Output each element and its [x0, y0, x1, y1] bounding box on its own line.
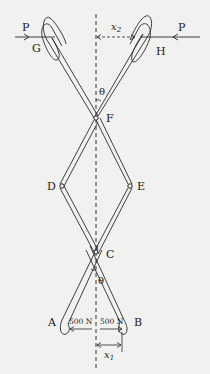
label-x2: x2 [111, 21, 122, 34]
label-theta-top: θ [99, 86, 105, 97]
pin-D [60, 184, 64, 188]
label-A: A [47, 316, 57, 329]
label-x1: x1 [104, 349, 114, 362]
label-500N-right: 500 N [100, 317, 124, 326]
label-theta-bottom: θ [98, 275, 104, 286]
pin-C [94, 250, 98, 254]
link-F-D [60, 120, 98, 186]
pin-E [128, 184, 132, 188]
label-D: D [47, 180, 56, 193]
label-G: G [32, 42, 41, 55]
label-P-right: P [178, 21, 186, 34]
pin-F [94, 116, 98, 120]
label-C: C [106, 248, 114, 261]
link-D-C [60, 186, 98, 252]
arm-H-C [94, 16, 152, 118]
label-B: B [134, 316, 142, 329]
angle-arc-top [96, 100, 101, 101]
arm-G-C [42, 17, 98, 118]
label-500N-left: 500 N [69, 317, 93, 326]
force-arrow-left-P [15, 34, 55, 40]
link-E-C [94, 188, 132, 254]
label-H: H [156, 45, 166, 58]
label-E: E [137, 180, 145, 193]
label-F: F [106, 112, 114, 125]
dimension-x2 [97, 35, 135, 40]
diagram-canvas: P G P H x2 θ F D E C θ A B 500 N 500 N x… [0, 0, 210, 374]
link-F-E [96, 118, 132, 184]
label-P-left: P [22, 21, 30, 34]
